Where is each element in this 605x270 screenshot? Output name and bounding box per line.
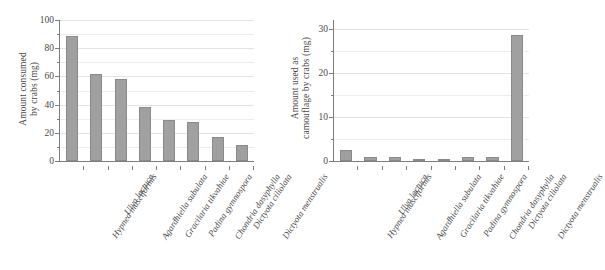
- y-tick-minor: [331, 95, 334, 96]
- panel-amount-consumed: Amount consumed by crabs (mg) 0204060801…: [0, 0, 271, 270]
- y-tick-minor: [331, 139, 334, 140]
- bar: [187, 122, 199, 161]
- gridline-minor: [60, 91, 254, 92]
- bar: [90, 74, 102, 161]
- y-tick-label: 40: [45, 105, 55, 106]
- x-tick: [455, 166, 456, 170]
- bar: [163, 120, 175, 161]
- gridline-minor: [334, 51, 529, 52]
- gridline-minor: [60, 34, 254, 35]
- bar: [462, 157, 474, 161]
- bar: [212, 137, 224, 161]
- gridline-minor: [60, 62, 254, 63]
- x-tick: [382, 166, 383, 170]
- x-tick: [229, 166, 230, 170]
- y-axis-title-camouflage: Amount used as camouflage by crabs (mg): [290, 14, 312, 162]
- gridline-major: [334, 117, 529, 118]
- x-tick: [357, 166, 358, 170]
- y-tick-label: 0: [323, 161, 328, 162]
- y-tick-major: [55, 48, 60, 49]
- bar: [139, 107, 151, 161]
- gridline-major: [60, 105, 254, 106]
- y-axis-title-consumed: Amount consumed by crabs (mg): [18, 18, 40, 160]
- gridline-minor: [334, 95, 529, 96]
- bar: [115, 79, 127, 161]
- gridline-major: [60, 20, 254, 21]
- bar: [389, 157, 401, 161]
- x-tick: [431, 166, 432, 170]
- plot-area-camouflage: 0102030: [333, 20, 529, 162]
- gridline-major: [60, 133, 254, 134]
- y-tick-major: [329, 117, 334, 118]
- x-tick: [132, 166, 133, 170]
- plot-area-consumed: 020406080100: [59, 20, 254, 162]
- bar: [511, 35, 523, 161]
- panel-amount-camouflage: Amount used as camouflage by crabs (mg) …: [272, 0, 543, 270]
- bar: [438, 159, 450, 161]
- gridline-minor: [60, 147, 254, 148]
- x-tick: [406, 166, 407, 170]
- y-tick-minor: [331, 51, 334, 52]
- gridline-major: [60, 76, 254, 77]
- x-tick: [479, 166, 480, 170]
- y-tick-label: 20: [45, 133, 55, 134]
- gridline-minor: [60, 119, 254, 120]
- y-tick-major: [329, 161, 334, 162]
- y-tick-label: 10: [319, 117, 329, 118]
- y-tick-label: 30: [319, 29, 329, 30]
- y-tick-major: [55, 161, 60, 162]
- y-tick-minor: [57, 34, 60, 35]
- y-tick-minor: [57, 147, 60, 148]
- x-tick: [83, 166, 84, 170]
- gridline-minor: [334, 139, 529, 140]
- y-tick-label: 80: [45, 48, 55, 49]
- y-tick-minor: [57, 119, 60, 120]
- y-tick-minor: [57, 62, 60, 63]
- y-tick-label: 100: [40, 20, 54, 21]
- x-tick: [205, 166, 206, 170]
- gridline-major: [334, 29, 529, 30]
- x-tick: [504, 166, 505, 170]
- y-tick-major: [55, 133, 60, 134]
- gridline-major: [334, 73, 529, 74]
- x-tick: [528, 166, 529, 170]
- bar: [236, 145, 248, 161]
- x-tick: [108, 166, 109, 170]
- bar: [486, 157, 498, 161]
- x-axis-category-label: Ulva lactuca: [122, 172, 156, 216]
- y-tick-major: [329, 29, 334, 30]
- y-tick-major: [55, 20, 60, 21]
- bar: [413, 159, 425, 161]
- bar: [66, 36, 78, 161]
- y-tick-label: 20: [319, 73, 329, 74]
- y-tick-major: [55, 76, 60, 77]
- y-tick-major: [55, 105, 60, 106]
- x-tick: [180, 166, 181, 170]
- gridline-major: [60, 48, 254, 49]
- x-tick: [253, 166, 254, 170]
- x-axis-category-label: Ulva lactuca: [396, 172, 430, 216]
- y-tick-label: 60: [45, 76, 55, 77]
- bar: [340, 150, 352, 161]
- y-tick-minor: [57, 91, 60, 92]
- y-tick-label: 0: [49, 161, 54, 162]
- x-tick: [156, 166, 157, 170]
- bar: [364, 157, 376, 161]
- y-tick-major: [329, 73, 334, 74]
